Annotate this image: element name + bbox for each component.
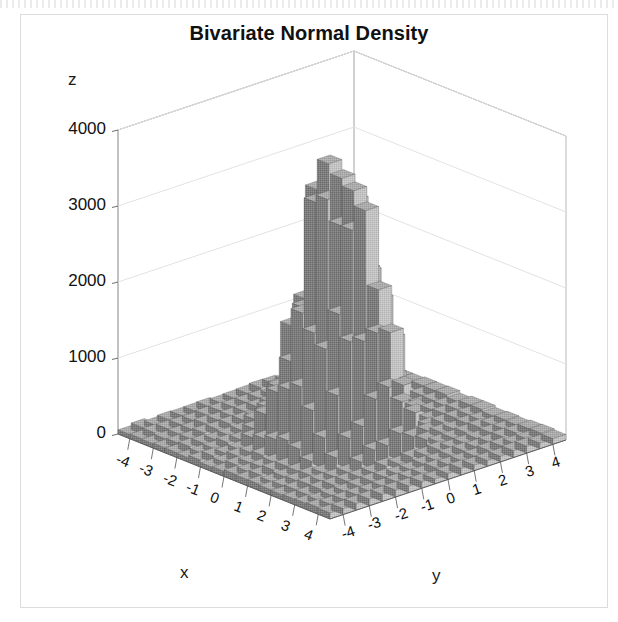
z-tick-label: 0 (97, 423, 106, 443)
z-axis-label: z (68, 70, 77, 90)
z-tick-label: 4000 (68, 119, 106, 139)
z-tick-label: 1000 (68, 347, 106, 367)
chart-title: Bivariate Normal Density (0, 22, 618, 45)
x-axis-label: x (180, 563, 189, 583)
figure-root: Bivariate Normal Density z x y 010002000… (0, 0, 618, 622)
z-tick-label: 2000 (68, 271, 106, 291)
y-axis-label: y (432, 566, 441, 586)
z-tick-label: 3000 (68, 195, 106, 215)
